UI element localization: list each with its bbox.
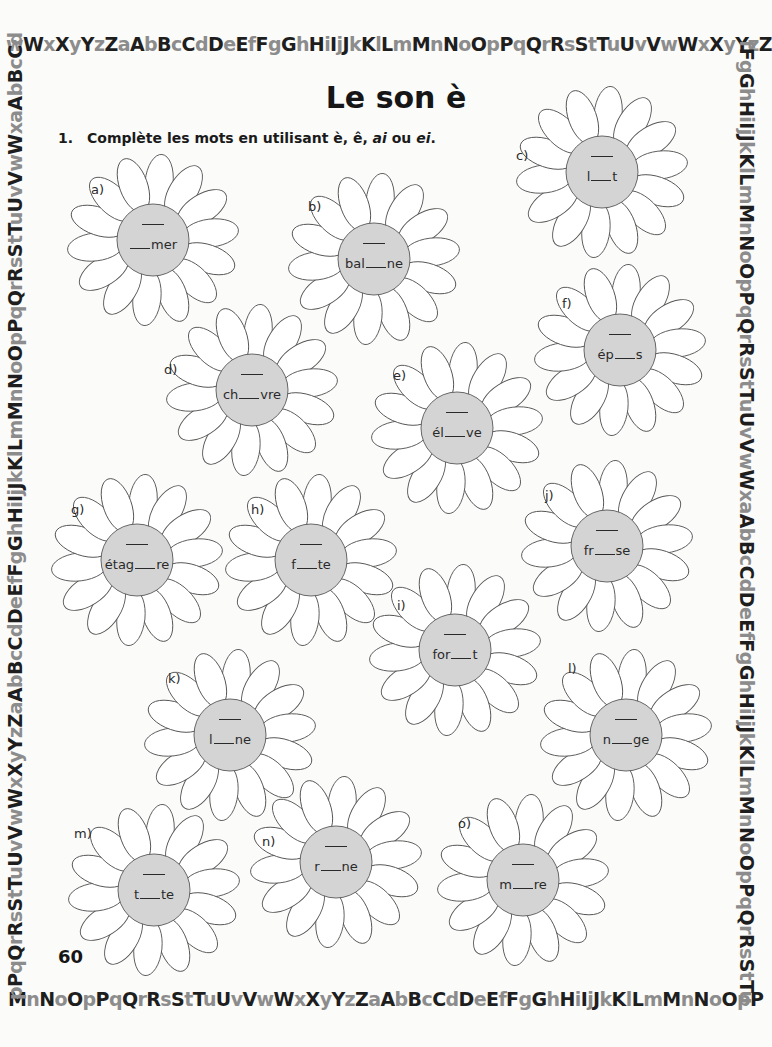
accent-answer-line[interactable] [609, 334, 631, 335]
word-suffix: re [534, 877, 547, 892]
word-prefix: bal [345, 256, 365, 271]
word-prefix: étag [105, 557, 134, 572]
word-to-complete: rne [276, 858, 396, 875]
accent-answer-line[interactable] [591, 156, 613, 157]
instruction-text-end: . [431, 130, 436, 146]
word-prefix: l [587, 169, 591, 184]
word-to-complete: fte [251, 556, 371, 573]
item-label: c) [516, 148, 528, 163]
item-label: d) [164, 362, 177, 377]
word-suffix: t [612, 169, 617, 184]
word-suffix: se [616, 543, 631, 558]
word-suffix: t [472, 647, 477, 662]
word-suffix: ne [235, 732, 251, 747]
item-label: b) [308, 199, 321, 214]
exercise-instruction: 1.Complète les mots en utilisant è, ê, a… [58, 130, 436, 146]
word-prefix: t [134, 887, 139, 902]
word-to-complete: lt [542, 168, 662, 185]
item-label: n) [262, 834, 275, 849]
instruction-ai: ai [373, 130, 387, 146]
word-suffix: ge [633, 732, 649, 747]
accent-answer-line[interactable] [143, 874, 165, 875]
answer-blank[interactable] [612, 731, 632, 744]
word-to-complete: lne [170, 731, 290, 748]
word-suffix: ve [466, 425, 482, 440]
word-to-complete: mer [93, 236, 213, 253]
accent-answer-line[interactable] [241, 374, 263, 375]
word-prefix: fr [584, 543, 594, 558]
word-prefix: m [499, 877, 512, 892]
item-label: h) [251, 502, 264, 517]
instruction-text-mid: ou [387, 130, 416, 146]
alphabet-border-right: fFgGhHiIjJkKlLmMnNoOpPqQrRsStTuUvVwWxaAb… [737, 40, 756, 1003]
answer-blank[interactable] [445, 424, 465, 437]
word-suffix: re [156, 557, 169, 572]
answer-blank[interactable] [366, 255, 386, 268]
item-label: g) [71, 502, 84, 517]
accent-answer-line[interactable] [363, 243, 385, 244]
instruction-ei: ei [416, 130, 430, 146]
answer-blank[interactable] [140, 886, 160, 899]
answer-blank[interactable] [513, 876, 533, 889]
word-to-complete: mre [463, 876, 583, 893]
accent-answer-line[interactable] [615, 719, 637, 720]
alphabet-border-bottom: MnNoOpPqQrRsStTuUvVwWxXyYzZaAbBcCdDeEfFg… [8, 990, 763, 1009]
accent-answer-line[interactable] [512, 864, 534, 865]
item-label: f) [562, 296, 572, 311]
word-suffix: ne [342, 859, 358, 874]
item-label: i) [397, 598, 406, 613]
item-label: e) [393, 368, 406, 383]
accent-answer-line[interactable] [444, 634, 466, 635]
answer-blank[interactable] [451, 646, 471, 659]
word-suffix: mer [151, 237, 177, 252]
word-suffix: te [161, 887, 174, 902]
word-prefix: f [291, 557, 296, 572]
word-to-complete: balne [314, 255, 434, 272]
page-number: 60 [58, 946, 83, 967]
item-label: l) [568, 661, 577, 676]
word-prefix: l [209, 732, 213, 747]
answer-blank[interactable] [239, 386, 259, 399]
answer-blank[interactable] [297, 556, 317, 569]
word-to-complete: tte [94, 886, 214, 903]
alphabet-border-top: wWxXyYzZaAbBcCdDeEfFgGhHiIjJkKlLmMnNoOpP… [6, 35, 772, 54]
answer-blank[interactable] [135, 556, 155, 569]
answer-blank[interactable] [321, 858, 341, 871]
word-suffix: vre [260, 387, 281, 402]
word-to-complete: élve [397, 424, 517, 441]
accent-answer-line[interactable] [126, 544, 148, 545]
word-to-complete: nge [566, 731, 686, 748]
exercise-number: 1. [58, 130, 73, 146]
accent-answer-line[interactable] [325, 846, 347, 847]
word-suffix: te [318, 557, 331, 572]
word-to-complete: frse [547, 542, 667, 559]
item-label: k) [168, 671, 181, 686]
word-prefix: ép [597, 347, 613, 362]
instruction-text: Complète les mots en utilisant è, ê, [87, 130, 373, 146]
item-label: a) [91, 182, 104, 197]
word-suffix: ne [387, 256, 403, 271]
item-label: j) [545, 488, 554, 503]
item-label: m) [74, 826, 92, 841]
answer-blank[interactable] [591, 168, 611, 181]
word-to-complete: chvre [192, 386, 312, 403]
word-prefix: ch [223, 387, 238, 402]
accent-answer-line[interactable] [300, 544, 322, 545]
word-to-complete: fort [395, 646, 515, 663]
accent-answer-line[interactable] [142, 224, 164, 225]
answer-blank[interactable] [214, 731, 234, 744]
accent-answer-line[interactable] [446, 412, 468, 413]
accent-answer-line[interactable] [596, 530, 618, 531]
answer-blank[interactable] [130, 236, 150, 249]
word-prefix: r [314, 859, 319, 874]
word-prefix: él [432, 425, 444, 440]
item-label: o) [458, 816, 471, 831]
answer-blank[interactable] [615, 346, 635, 359]
word-prefix: n [603, 732, 611, 747]
word-suffix: s [636, 347, 643, 362]
accent-answer-line[interactable] [219, 719, 241, 720]
alphabet-border-left: pPqQrRsStTuUvVwWxXyYzZaAbBcCdDeEfFgGhHiI… [6, 32, 25, 1000]
word-to-complete: éps [560, 346, 680, 363]
word-to-complete: étagre [77, 556, 197, 573]
answer-blank[interactable] [595, 542, 615, 555]
